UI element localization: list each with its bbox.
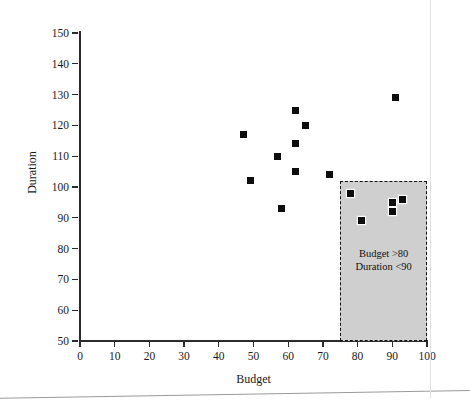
y-axis-tick-label: 110 [43, 150, 69, 162]
data-point [326, 171, 333, 178]
y-axis-tick-label: 100 [43, 181, 69, 193]
x-axis-tick-label: 90 [377, 350, 407, 362]
y-axis-tick-label: 70 [43, 273, 69, 285]
y-axis-tick [72, 340, 78, 341]
x-axis-tick [79, 341, 80, 347]
x-axis-tick-label: 80 [343, 350, 373, 362]
x-axis-tick [218, 341, 219, 347]
page-right-edge-artifact [430, 0, 431, 398]
x-axis-tick-label: 0 [65, 350, 95, 362]
x-axis-tick-label: 50 [239, 350, 269, 362]
x-axis-tick [288, 341, 289, 347]
x-axis-tick-label: 40 [204, 350, 234, 362]
y-axis-tick-label: 80 [43, 243, 69, 255]
highlight-region-label: Budget >80 Duration <90 [340, 247, 427, 273]
x-axis-tick [392, 341, 393, 347]
data-point [278, 205, 285, 212]
x-axis-tick [183, 341, 184, 347]
x-axis-tick-label: 20 [134, 350, 164, 362]
y-axis-tick [72, 248, 78, 249]
y-axis-tick [72, 94, 78, 95]
y-axis-title: Duration [25, 133, 40, 213]
data-point [399, 196, 406, 203]
x-axis-tick-label: 70 [308, 350, 338, 362]
data-point [292, 140, 299, 147]
x-axis-tick-label: 30 [169, 350, 199, 362]
y-axis-tick-label: 60 [43, 304, 69, 316]
x-axis-tick [253, 341, 254, 347]
data-point [358, 217, 365, 224]
x-axis-tick-label: 10 [100, 350, 130, 362]
x-axis-tick [357, 341, 358, 347]
y-axis-tick [72, 32, 78, 33]
y-axis-tick-label: 130 [43, 89, 69, 101]
y-axis-tick-label: 120 [43, 119, 69, 131]
y-axis-tick-label: 90 [43, 212, 69, 224]
x-axis-tick-label: 60 [273, 350, 303, 362]
data-point [240, 131, 247, 138]
data-point [292, 168, 299, 175]
page-edge-artifact [0, 390, 470, 399]
y-axis-tick [72, 125, 78, 126]
data-point [274, 153, 281, 160]
y-axis-line [79, 31, 81, 342]
y-axis-tick-label: 50 [43, 335, 69, 347]
x-axis-tick [149, 341, 150, 347]
data-point [392, 94, 399, 101]
data-point [389, 199, 396, 206]
y-axis-tick [72, 217, 78, 218]
y-axis-tick [72, 156, 78, 157]
data-point [347, 190, 354, 197]
x-axis-tick [426, 341, 427, 347]
y-axis-tick [72, 186, 78, 187]
data-point [302, 122, 309, 129]
x-axis-tick [114, 341, 115, 347]
data-point [292, 107, 299, 114]
y-axis-tick [72, 279, 78, 280]
x-axis-title: Budget [79, 372, 428, 387]
x-axis-tick [322, 341, 323, 347]
y-axis-tick [72, 63, 78, 64]
highlight-label-line-1: Budget >80 [340, 247, 427, 260]
x-axis-tick-label: 100 [412, 350, 442, 362]
y-axis-tick-label: 140 [43, 58, 69, 70]
data-point [247, 177, 254, 184]
data-point [389, 208, 396, 215]
highlight-label-line-2: Duration <90 [340, 260, 427, 273]
y-axis-tick-label: 150 [43, 27, 69, 39]
y-axis-tick [72, 310, 78, 311]
